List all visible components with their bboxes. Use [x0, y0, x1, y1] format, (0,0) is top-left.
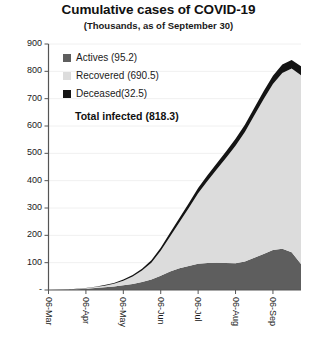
legend-label-deceased: Deceased(32.5) [76, 89, 147, 99]
y-tick-label: - [8, 285, 42, 294]
y-tick-label: 500 [8, 148, 42, 157]
legend-label-recovered: Recovered (690.5) [76, 71, 159, 81]
legend-item-recovered: Recovered (690.5) [63, 71, 159, 81]
y-tick-label: 600 [8, 121, 42, 130]
x-tick-label: 06-Apr [81, 297, 90, 324]
x-tick-label: 06-Jun [156, 297, 165, 325]
legend-label-actives: Actives (95.2) [76, 53, 137, 63]
y-tick-label: 300 [8, 203, 42, 212]
y-tick-label: 400 [8, 176, 42, 185]
x-tick-label: 06-Aug [231, 297, 240, 326]
chart-plot-area [0, 0, 317, 339]
y-tick-label: 200 [8, 230, 42, 239]
x-tick-label: 06-Sep [268, 297, 277, 326]
total-infected-annotation: Total infected (818.3) [75, 110, 179, 122]
x-tick-label: 06-Jul [193, 297, 202, 322]
legend-item-deceased: Deceased(32.5) [63, 89, 147, 99]
x-tick-label: 06-Mar [44, 297, 53, 326]
y-tick-label: 700 [8, 94, 42, 103]
legend-swatch-actives [63, 54, 71, 62]
x-tick-label: 06-May [118, 297, 127, 327]
y-tick-label: 100 [8, 258, 42, 267]
legend-swatch-deceased [63, 90, 71, 98]
legend-item-actives: Actives (95.2) [63, 53, 137, 63]
y-tick-label: 800 [8, 66, 42, 75]
covid-cumulative-cases-chart: Cumulative cases of COVID-19 (Thousands,… [0, 0, 317, 339]
y-tick-label: 900 [8, 39, 42, 48]
legend-swatch-recovered [63, 72, 71, 80]
